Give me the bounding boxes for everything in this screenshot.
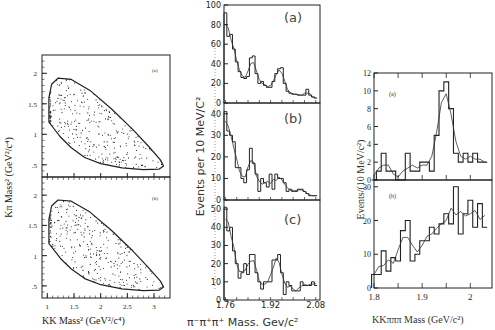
scatter-point [120, 287, 121, 288]
scatter-point [152, 285, 153, 286]
middle-xlabel: π⁻π⁺π⁺ Mass. Gev/c² [187, 316, 298, 329]
scatter-point [130, 249, 131, 250]
scatter-point [106, 237, 107, 238]
scatter-point [125, 163, 126, 164]
scatter-point [51, 211, 52, 212]
scatter-point [122, 279, 123, 280]
scatter-point [122, 128, 123, 129]
scatter-point [141, 157, 142, 158]
scatter-point [110, 285, 111, 286]
scatter-point [54, 245, 55, 246]
scatter-point [114, 138, 115, 139]
scatter-point [134, 286, 135, 287]
tick-label: .5 [32, 162, 38, 170]
tick-label: 2.08 [306, 300, 325, 310]
scatter-point [105, 118, 106, 119]
scatter-point [88, 151, 89, 152]
scatter-point [91, 243, 92, 244]
scatter-point [83, 275, 84, 276]
scatter-point [113, 158, 114, 159]
scatter-point [99, 255, 100, 256]
scatter-point [74, 141, 75, 142]
scatter-point [50, 104, 51, 105]
scatter-point [103, 283, 104, 284]
scatter-point [80, 90, 81, 91]
scatter-point [134, 157, 135, 158]
scatter-point [96, 264, 97, 265]
scatter-point [82, 130, 83, 131]
scatter-point [87, 112, 88, 113]
scatter-point [57, 84, 58, 85]
scatter-point [152, 160, 153, 161]
scatter-point [90, 253, 91, 254]
scatter-point [85, 223, 86, 224]
scatter-point [99, 251, 100, 252]
scatter-point [156, 167, 157, 168]
scatter-point [60, 98, 61, 99]
scatter-point [128, 136, 129, 137]
left-label-b: (b) [152, 196, 158, 201]
scatter-point [105, 258, 106, 259]
scatter-point [100, 232, 101, 233]
scatter-point [61, 109, 62, 110]
scatter-point [123, 285, 124, 286]
scatter-point [146, 266, 147, 267]
scatter-point [92, 231, 93, 232]
scatter-point [131, 287, 132, 288]
scatter-point [101, 223, 102, 224]
scatter-point [107, 253, 108, 254]
tick-label: 40 [211, 223, 221, 232]
scatter-point [76, 218, 77, 219]
scatter-point [83, 276, 84, 277]
tick-label: 12 [363, 69, 371, 78]
scatter-point [105, 147, 106, 148]
scatter-point [67, 233, 68, 234]
right-label-a: (a) [389, 91, 396, 97]
scatter-point [54, 248, 55, 249]
scatter-point [96, 252, 97, 253]
scatter-point [139, 158, 140, 159]
scatter-point [89, 233, 90, 234]
hist-b-histogram [224, 112, 317, 200]
scatter-point [60, 246, 61, 247]
tick-label: 1 [34, 253, 38, 261]
scatter-point [74, 232, 75, 233]
scatter-point [126, 154, 127, 155]
scatter-point [66, 79, 67, 80]
scatter-point [131, 130, 132, 131]
scatter-point [150, 271, 151, 272]
scatter-point [95, 269, 96, 270]
scatter-point [57, 207, 58, 208]
scatter-point [61, 95, 62, 96]
scatter-point [124, 260, 125, 261]
scatter-point [103, 232, 104, 233]
scatter-point [88, 272, 89, 273]
scatter-point [83, 210, 84, 211]
tick-label: 100 [206, 1, 221, 10]
scatter-point [128, 157, 129, 158]
scatter-point [63, 100, 64, 101]
scatter-point [104, 278, 105, 279]
scatter-point [64, 97, 65, 98]
scatter-point [51, 225, 52, 226]
scatter-point [130, 261, 131, 262]
scatter-point [62, 255, 63, 256]
scatter-point [96, 147, 97, 148]
tick-label: 20 [211, 153, 221, 162]
scatter-point [61, 233, 62, 234]
scatter-point [84, 230, 85, 231]
scatter-point [68, 204, 69, 205]
scatter-point [91, 244, 92, 245]
scatter-point [60, 225, 61, 226]
scatter-point [49, 121, 50, 122]
scatter-point [76, 224, 77, 225]
scatter-point [86, 120, 87, 121]
scatter-point [116, 159, 117, 160]
scatter-point [99, 99, 100, 100]
scatter-point [84, 155, 85, 156]
scatter-point [54, 222, 55, 223]
scatter-point [121, 132, 122, 133]
scatter-point [86, 138, 87, 139]
scatter-point [79, 113, 80, 114]
dalitz-b-boundary [49, 200, 164, 291]
